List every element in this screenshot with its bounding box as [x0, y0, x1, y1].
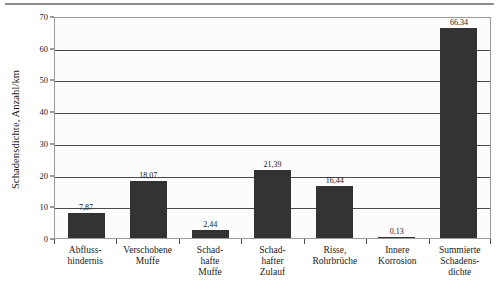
x-category-label-line: Rohrbrüche [305, 256, 365, 267]
y-tick-mark [50, 143, 54, 144]
bar-value-label: 66,34 [450, 19, 468, 27]
bar-slot: 66,34 [428, 18, 490, 238]
x-category-label: InnereKorrosion [366, 245, 428, 295]
y-tick-mark [50, 112, 54, 113]
bar-value-label: 0,13 [390, 228, 404, 236]
x-category-label-line: Summierte [430, 245, 490, 256]
x-category-label-line: Verschobene [117, 245, 177, 256]
x-category-label-line: Abfluss- [55, 245, 115, 256]
x-category-label: Abfluss-hindernis [54, 245, 116, 295]
x-category-label: SummierteSchadens-dichte [429, 245, 491, 295]
x-category-label: Risse,Rohrbrüche [304, 245, 366, 295]
y-tick-label: 40 [26, 108, 48, 117]
bar-slot: 16,44 [304, 18, 366, 238]
x-category-label-line: Schadens- [430, 256, 490, 267]
x-tick-mark [490, 239, 491, 244]
x-tick-mark [241, 239, 242, 244]
plot-area: 7,8718,072,4421,3916,440,1366,34 [54, 17, 491, 239]
x-category-label-line: Muffe [180, 267, 240, 278]
bar-series: 7,8718,072,4421,3916,440,1366,34 [55, 18, 490, 238]
x-category-label-line: Zulauf [242, 267, 302, 278]
x-category-label-line: Korrosion [367, 256, 427, 267]
y-tick-label: 50 [26, 76, 48, 85]
x-category-label: Schad-hafterZulauf [241, 245, 303, 295]
bar[interactable]: 66,34 [440, 28, 477, 238]
bar-slot: 21,39 [241, 18, 303, 238]
bar[interactable]: 7,87 [68, 213, 105, 238]
bar-chart-figure: Schadensdichte, Anzahl/km 01020304050607… [0, 0, 499, 299]
bar-value-label: 16,44 [326, 177, 344, 185]
y-tick-mark [50, 48, 54, 49]
bar-value-label: 21,39 [263, 161, 281, 169]
x-category-label-line: Schad- [242, 245, 302, 256]
x-tick-mark [179, 239, 180, 244]
y-tick-mark [50, 17, 54, 18]
bar-slot: 0,13 [366, 18, 428, 238]
x-category-label: VerschobeneMuffe [116, 245, 178, 295]
y-tick-label: 20 [26, 171, 48, 180]
bar[interactable]: 21,39 [254, 170, 291, 238]
bar-slot: 7,87 [55, 18, 117, 238]
bar-slot: 18,07 [117, 18, 179, 238]
y-tick-mark [50, 175, 54, 176]
bar-slot: 2,44 [179, 18, 241, 238]
y-tick-label: 0 [26, 235, 48, 244]
x-category-label-line: Risse, [305, 245, 365, 256]
x-category-label-line: Schad- [180, 245, 240, 256]
x-axis-tick-marks [54, 239, 491, 244]
y-tick-label: 60 [26, 44, 48, 53]
x-tick-mark [116, 239, 117, 244]
x-category-label-line: dichte [430, 267, 490, 278]
y-axis-tick-labels: 010203040506070 [26, 17, 48, 239]
bar[interactable]: 0,13 [378, 237, 415, 238]
y-axis-title-text: Schadensdichte, Anzahl/km [11, 69, 22, 188]
y-tick-mark [50, 207, 54, 208]
x-tick-mark [429, 239, 430, 244]
x-tick-mark [304, 239, 305, 244]
x-tick-mark [54, 239, 55, 244]
y-axis-title: Schadensdichte, Anzahl/km [5, 18, 27, 240]
bar[interactable]: 2,44 [192, 230, 229, 238]
x-tick-mark [366, 239, 367, 244]
bar[interactable]: 16,44 [316, 186, 353, 238]
y-tick-label: 10 [26, 203, 48, 212]
x-category-label-line: hafte [180, 256, 240, 267]
bar[interactable]: 18,07 [130, 181, 167, 238]
x-axis-category-labels: Abfluss-hindernisVerschobeneMuffeSchad-h… [54, 245, 491, 295]
x-category-label-line: hafter [242, 256, 302, 267]
bar-value-label: 7,87 [79, 204, 93, 212]
x-category-label-line: hindernis [55, 256, 115, 267]
x-category-label-line: Muffe [117, 256, 177, 267]
top-divider-rule [5, 3, 494, 5]
y-tick-label: 70 [26, 13, 48, 22]
x-category-label: Schad-hafteMuffe [179, 245, 241, 295]
bar-value-label: 18,07 [139, 172, 157, 180]
bar-value-label: 2,44 [203, 221, 217, 229]
y-tick-mark [50, 80, 54, 81]
y-tick-mark [50, 239, 54, 240]
x-category-label-line: Innere [367, 245, 427, 256]
y-tick-label: 30 [26, 140, 48, 149]
